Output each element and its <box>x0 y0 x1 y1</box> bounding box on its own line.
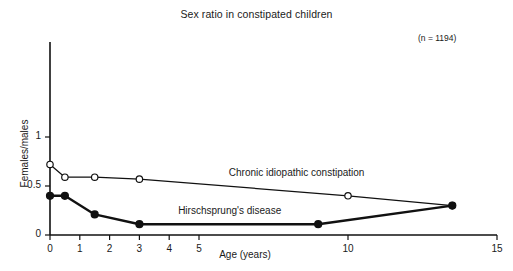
x-tick-label: 10 <box>328 243 368 254</box>
data-point-marker <box>449 202 456 209</box>
data-point-marker <box>47 161 53 167</box>
x-tick-label: 15 <box>477 243 513 254</box>
data-point-marker <box>92 174 98 180</box>
data-point-marker <box>345 193 351 199</box>
data-point-marker <box>136 176 142 182</box>
data-point-marker <box>47 192 54 199</box>
data-point-marker <box>62 174 68 180</box>
data-point-marker <box>136 221 143 228</box>
data-point-marker <box>62 192 69 199</box>
data-point-marker <box>315 221 322 228</box>
data-point-marker <box>91 211 98 218</box>
plot-area <box>0 0 513 271</box>
x-tick-label: 5 <box>179 243 219 254</box>
y-tick-label: 0.5 <box>0 179 41 190</box>
chart-container: Sex ratio in constipated children (n = 1… <box>0 0 513 271</box>
series-label: Chronic idiopathic constipation <box>229 167 365 178</box>
series-label: Hirschsprung's disease <box>178 205 281 216</box>
y-tick-label: 1 <box>0 130 41 141</box>
y-tick-label: 0 <box>0 228 41 239</box>
